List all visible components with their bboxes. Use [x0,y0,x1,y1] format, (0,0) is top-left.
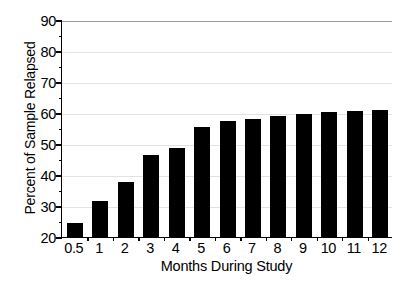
y-axis-tick [56,237,62,239]
bar [194,127,210,237]
bar [270,116,286,237]
bar [245,119,261,237]
bar [143,155,159,237]
plot-area [61,21,392,238]
bar [347,111,363,237]
bar [296,114,312,237]
bars-layer [62,21,392,237]
bar-chart: Percent of Sample Relapsed 9080706050403… [0,0,411,283]
y-axis-tick-label: 20 [10,231,56,246]
bar [169,148,185,237]
y-axis-tick-label: 70 [10,76,56,91]
bar [220,121,236,237]
bar [67,223,83,237]
bar [321,112,337,237]
y-axis-tick-label: 90 [10,14,56,29]
y-axis-tick-label: 30 [10,200,56,215]
x-axis-title: Months During Study [61,258,392,274]
y-axis-tick-label: 50 [10,138,56,153]
y-axis-tick-label: 40 [10,169,56,184]
y-axis-tick-label: 60 [10,107,56,122]
y-axis-tick-label: 80 [10,45,56,60]
bar [118,182,134,237]
x-axis-tick-label: 12 [359,241,399,256]
bar [372,110,388,237]
bar [92,201,108,237]
